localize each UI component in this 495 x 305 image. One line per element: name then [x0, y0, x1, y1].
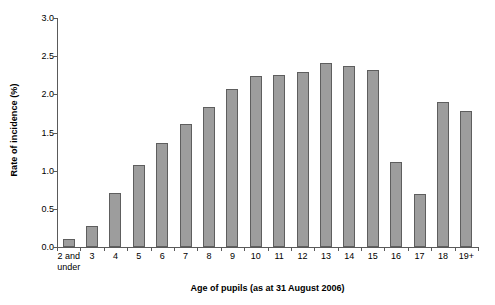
- x-tick-label: 19+: [459, 251, 474, 262]
- x-tick-label: 5: [136, 251, 141, 262]
- bar: [460, 111, 472, 247]
- x-tick-label: 4: [113, 251, 118, 262]
- bar: [180, 124, 192, 247]
- bar: [343, 66, 355, 247]
- x-tick-label: 13: [321, 251, 331, 262]
- y-axis-tick-labels: 0.00.51.01.52.02.53.0: [24, 0, 54, 305]
- bar: [63, 239, 75, 247]
- bar: [297, 72, 309, 247]
- x-tick-label: 10: [251, 251, 261, 262]
- x-tick-label: 6: [160, 251, 165, 262]
- x-tick-label: 3: [90, 251, 95, 262]
- x-tick-label: 18: [438, 251, 448, 262]
- x-tick-label: 9: [230, 251, 235, 262]
- bar-chart: Rate of incidence (%) 0.00.51.01.52.02.5…: [0, 0, 495, 305]
- x-axis-tick-labels: 2 and under345678910111213141516171819+: [57, 251, 478, 281]
- x-axis-title: Age of pupils (as at 31 August 2006): [57, 283, 478, 293]
- x-tick-label: 12: [298, 251, 308, 262]
- x-tick-label: 14: [344, 251, 354, 262]
- bar: [367, 70, 379, 247]
- y-axis-title-label: Rate of incidence (%): [9, 83, 19, 176]
- bar: [250, 76, 262, 247]
- bar: [86, 226, 98, 247]
- x-tick-label: 11: [275, 251, 284, 262]
- x-tick-label: 2 and under: [57, 251, 80, 273]
- x-tick-label: 7: [183, 251, 188, 262]
- bar: [109, 193, 121, 247]
- bar: [226, 89, 238, 247]
- x-tick-label: 17: [415, 251, 425, 262]
- bar: [273, 75, 285, 248]
- plot-area: [57, 18, 478, 247]
- bar: [437, 102, 449, 247]
- bar: [390, 162, 402, 247]
- bar: [203, 107, 215, 247]
- x-tick-label: 8: [207, 251, 212, 262]
- x-tick-label: 15: [368, 251, 378, 262]
- x-tick-label: 16: [391, 251, 401, 262]
- bar: [133, 165, 145, 247]
- bar: [156, 143, 168, 247]
- x-tick-mark: [478, 247, 479, 251]
- bar: [414, 194, 426, 247]
- bar: [320, 63, 332, 247]
- bars-container: [57, 18, 478, 247]
